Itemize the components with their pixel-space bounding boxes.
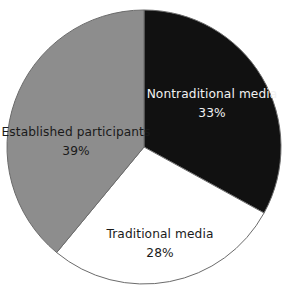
slice-value-established-participants: 39% [62, 144, 89, 158]
pie-slices-group [7, 10, 281, 284]
pie-chart: Nontraditional media33%Traditional media… [0, 0, 284, 305]
slice-label-established-participants: Established participants [2, 125, 151, 139]
slice-label-nontraditional-media: Nontraditional media [147, 87, 278, 101]
slice-label-traditional-media: Traditional media [106, 227, 214, 241]
slice-value-traditional-media: 28% [146, 246, 173, 260]
slice-value-nontraditional-media: 33% [198, 106, 225, 120]
pie-chart-svg: Nontraditional media33%Traditional media… [0, 0, 284, 305]
